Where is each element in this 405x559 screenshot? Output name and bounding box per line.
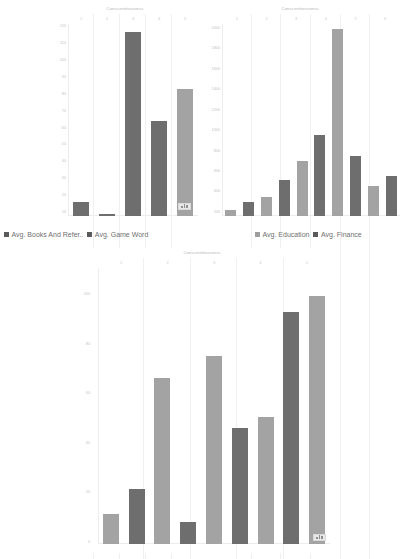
bar-bottom-finance-3[interactable]	[232, 428, 248, 544]
y-tick: 90	[62, 75, 66, 79]
bar-education-3[interactable]	[297, 161, 308, 216]
y-axis-education-finance: 2000 1800 1600 1400 1200 1000 800 600 40…	[198, 28, 220, 212]
bar-education-5[interactable]	[368, 186, 379, 216]
bar-group-bottom	[98, 268, 330, 544]
bar-books-1[interactable]	[73, 202, 89, 216]
legend-education-finance: Avg. Education Avg. Finance	[255, 231, 362, 238]
bar-finance-4[interactable]	[350, 156, 361, 216]
legend-item-game-word[interactable]: Avg. Game Word	[87, 231, 148, 238]
bar-slot[interactable]	[124, 268, 150, 544]
y-tick: 60	[86, 391, 90, 395]
legend-item-books[interactable]: Avg. Books And Refer..	[4, 231, 83, 238]
y-tick: 20	[62, 193, 66, 197]
y-tick: 100	[60, 58, 66, 62]
bar-slot[interactable]	[201, 268, 227, 544]
bar-slot[interactable]	[240, 24, 258, 216]
bar-education-1[interactable]	[225, 210, 236, 216]
bar-slot[interactable]	[175, 268, 201, 544]
bar-books-4[interactable]	[151, 121, 167, 216]
bar-slot[interactable]	[347, 24, 365, 216]
legend-swatch-icon	[313, 232, 318, 237]
bar-bottom-education-5[interactable]	[309, 296, 325, 544]
bar-slot[interactable]	[258, 24, 276, 216]
bar-slot[interactable]	[68, 24, 94, 216]
bar-bottom-finance-2[interactable]	[180, 522, 196, 544]
bar-slot[interactable]	[311, 24, 329, 216]
bar-group-books-game	[68, 24, 198, 216]
bar-slot[interactable]	[293, 24, 311, 216]
bar-slot[interactable]	[227, 268, 253, 544]
bar-finance-5[interactable]	[386, 176, 397, 216]
bar-slot[interactable]	[382, 24, 400, 216]
category-label: 2	[94, 14, 120, 24]
y-tick: 10	[62, 210, 66, 214]
category-label: 4	[237, 258, 283, 268]
y-tick: 1600	[212, 67, 220, 71]
category-strip-bottom: 1 2 3 4 5	[98, 258, 330, 268]
bar-game-5[interactable]	[177, 89, 193, 216]
bar-slot[interactable]	[94, 24, 120, 216]
legend-item-education[interactable]: Avg. Education	[255, 231, 309, 238]
category-label: 4	[146, 14, 172, 24]
legend-item-finance[interactable]: Avg. Finance	[313, 231, 361, 238]
y-tick: 800	[214, 149, 220, 153]
y-tick: 40	[62, 159, 66, 163]
y-tick: 1400	[212, 87, 220, 91]
bar-education-2[interactable]	[261, 197, 272, 216]
bar-bottom-education-2[interactable]	[154, 378, 170, 544]
y-tick: 400	[214, 189, 220, 193]
category-label: 2	[252, 14, 282, 24]
chart-panel-books-game: Conscientiousness 1 2 3 4 5 120 110 100 …	[50, 4, 200, 222]
y-tick: 120	[60, 24, 66, 28]
bar-slot[interactable]	[278, 268, 304, 544]
bar-education-4[interactable]	[332, 29, 343, 216]
category-label: 2	[144, 258, 190, 268]
bar-slot[interactable]	[98, 268, 124, 544]
bar-finance-3[interactable]	[314, 135, 325, 216]
y-tick: 30	[62, 176, 66, 180]
category-label: 3	[191, 258, 237, 268]
y-tick: 1800	[212, 46, 220, 50]
bar-slot[interactable]	[120, 24, 146, 216]
bar-bottom-education-1[interactable]	[103, 514, 119, 544]
bar-bottom-education-3[interactable]	[206, 356, 222, 544]
chart-title-bottom: Conscientiousness	[72, 250, 332, 255]
bar-slot[interactable]	[253, 268, 279, 544]
bar-bottom-education-4[interactable]	[258, 417, 274, 544]
bar-slot[interactable]	[275, 24, 293, 216]
plot-area-books-game	[68, 24, 198, 216]
y-tick: 70	[62, 109, 66, 113]
chart-title-books-game: Conscientiousness	[50, 6, 200, 11]
bar-game-2[interactable]	[99, 214, 115, 216]
plot-area-bottom	[98, 268, 330, 544]
bar-chart-icon[interactable]	[178, 203, 191, 210]
bar-bottom-finance-1[interactable]	[129, 489, 145, 544]
bar-finance-1[interactable]	[243, 202, 254, 216]
chart-panel-bottom: Conscientiousness 1 2 3 4 5 100 80 60 40…	[72, 248, 332, 553]
category-strip-education-finance: 1 2 3 4 5 6	[222, 14, 400, 24]
y-tick: 80	[62, 92, 66, 96]
legend-label: Avg. Education	[263, 231, 310, 238]
y-tick: 20	[86, 490, 90, 494]
y-tick: 100	[84, 292, 90, 296]
bar-slot[interactable]	[150, 268, 176, 544]
bar-books-3[interactable]	[125, 32, 141, 216]
legend-label: Avg. Game Word	[95, 231, 148, 238]
bar-finance-2[interactable]	[279, 180, 290, 216]
category-strip-books-game: 1 2 3 4 5	[68, 14, 198, 24]
bar-chart-icon[interactable]	[313, 534, 326, 541]
bar-slot[interactable]	[304, 268, 330, 544]
y-tick: 1200	[212, 108, 220, 112]
bar-slot[interactable]	[172, 24, 198, 216]
bar-bottom-finance-4[interactable]	[283, 312, 299, 544]
legend-swatch-icon	[255, 232, 260, 237]
bar-slot[interactable]	[364, 24, 382, 216]
bar-slot[interactable]	[329, 24, 347, 216]
legend-label: Avg. Finance	[321, 231, 362, 238]
bar-slot[interactable]	[146, 24, 172, 216]
category-label: 5	[172, 14, 198, 24]
bar-group-education-finance	[222, 24, 400, 216]
category-label: 5	[284, 258, 330, 268]
y-tick: 40	[86, 441, 90, 445]
bar-slot[interactable]	[222, 24, 240, 216]
